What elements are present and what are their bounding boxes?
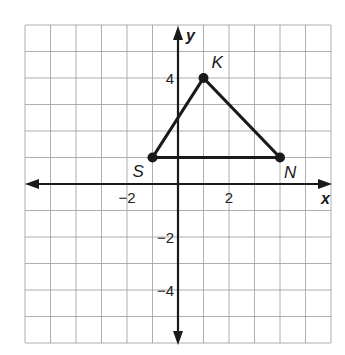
y-axis-label: y [185, 27, 196, 44]
coordinate-plane: −224−2−4xyKSN [0, 0, 345, 355]
x-axis-left-arrow-icon [25, 179, 39, 189]
axes [25, 26, 332, 345]
x-tick-label: 2 [225, 189, 233, 206]
x-axis-label: x [320, 190, 331, 207]
y-tick-label: −4 [157, 282, 174, 299]
point-label-k: K [212, 53, 224, 72]
segment-kn [204, 78, 281, 158]
point-label-s: S [133, 162, 145, 181]
point-n [275, 153, 285, 163]
x-axis-right-arrow-icon [318, 179, 332, 189]
y-axis-up-arrow-icon [173, 26, 183, 40]
point-label-n: N [284, 163, 297, 182]
y-tick-label: −2 [157, 229, 174, 246]
point-k [199, 73, 209, 83]
point-s [148, 153, 158, 163]
x-tick-label: −2 [118, 189, 135, 206]
labels: −224−2−4xyKSN [118, 27, 331, 299]
y-tick-label: 4 [166, 70, 174, 87]
